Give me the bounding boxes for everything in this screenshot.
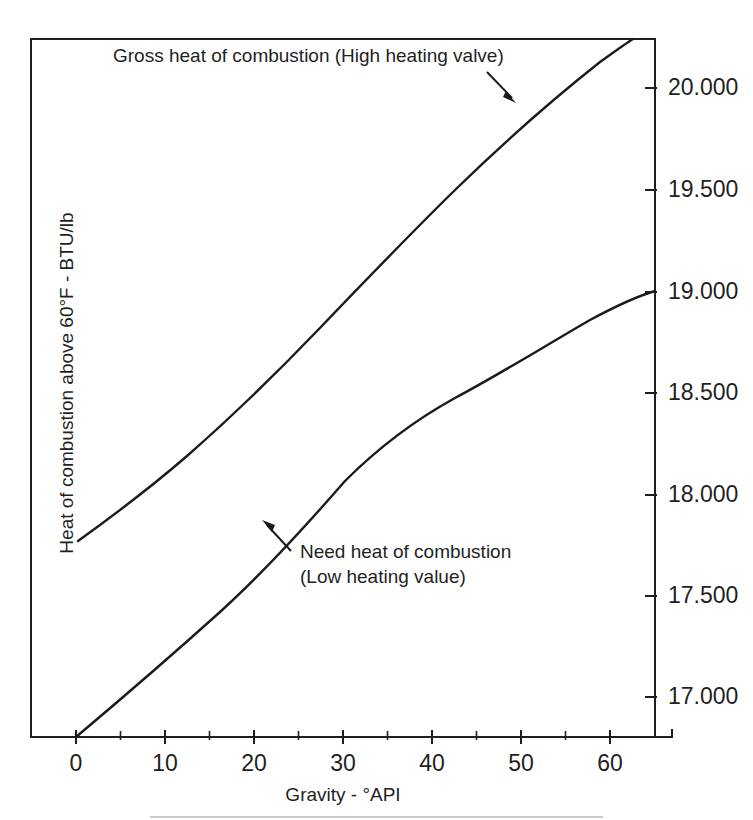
y-tick-label-17000: 17.000	[668, 683, 738, 709]
x-tick-label-20: 20	[241, 750, 267, 776]
gross-heat-annotation-arrowhead	[503, 91, 516, 103]
y-tick-label-17500: 17.500	[668, 582, 738, 608]
y-axis-title: Heat of combustion above 60°F - BTU/lb	[56, 212, 77, 553]
y-tick-label-20000: 20.000	[668, 74, 738, 100]
x-axis-title: Gravity - °API	[285, 784, 400, 805]
net-heat-annotation: Need heat of combustion (Low heating val…	[262, 520, 511, 587]
x-tick-label-10: 10	[152, 750, 178, 776]
x-axis-tick-labels: 0 10 20 30 40 50 60	[70, 750, 623, 776]
x-tick-label-40: 40	[419, 750, 445, 776]
x-tick-label-60: 60	[597, 750, 623, 776]
series-net-heat-curve	[76, 291, 655, 737]
gross-heat-annotation-label: Gross heat of combustion (High heating v…	[113, 45, 504, 66]
series-gross-heat-curve	[78, 39, 633, 541]
net-heat-annotation-label-line2: (Low heating value)	[300, 566, 466, 587]
x-tick-label-0: 0	[70, 750, 83, 776]
x-tick-label-30: 30	[330, 750, 356, 776]
y-tick-label-18000: 18.000	[668, 481, 738, 507]
y-axis-tick-labels: 20.000 19.500 19.000 18.500 18.000 17.50…	[668, 74, 738, 709]
heat-of-combustion-chart: 20.000 19.500 19.000 18.500 18.000 17.50…	[0, 0, 753, 820]
plot-frame	[31, 39, 672, 737]
net-heat-annotation-label-line1: Need heat of combustion	[300, 541, 511, 562]
y-tick-label-19500: 19.500	[668, 176, 738, 202]
chart-figure: 20.000 19.500 19.000 18.500 18.000 17.50…	[0, 0, 753, 820]
x-tick-label-50: 50	[508, 750, 534, 776]
y-tick-label-19000: 19.000	[668, 278, 738, 304]
gross-heat-annotation: Gross heat of combustion (High heating v…	[113, 45, 516, 103]
y-tick-label-18500: 18.500	[668, 379, 738, 405]
